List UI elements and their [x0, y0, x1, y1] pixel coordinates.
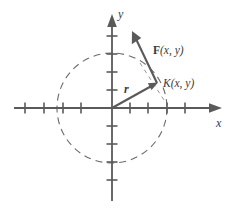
coordinate-plane-diagram [0, 0, 233, 215]
force-vector-label: F(x, y) [153, 45, 184, 57]
force-vector-args: (x, y) [160, 44, 184, 56]
position-vector-label: r [124, 83, 129, 95]
x-axis-arrowhead [209, 103, 222, 113]
point-k-args: (x, y) [171, 77, 195, 89]
x-axis-label: x [216, 117, 221, 129]
y-axis-label: y [118, 8, 123, 20]
figure-container: y x F(x, y) K(x, y) r [0, 0, 233, 215]
force-vector-symbol: F [153, 44, 160, 56]
position-vector-r-shaft [112, 86, 152, 108]
point-k-symbol: K [163, 77, 171, 89]
y-axis-arrowhead [107, 14, 117, 27]
point-k-label: K(x, y) [163, 78, 194, 90]
